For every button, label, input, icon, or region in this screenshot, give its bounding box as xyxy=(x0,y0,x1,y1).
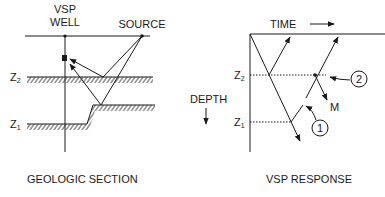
geologic-section-title: GEOLOGIC SECTION xyxy=(27,173,138,185)
z2-layer-hatch xyxy=(27,77,153,83)
vsp-response-title: VSP RESPONSE xyxy=(266,173,352,185)
z2-label: Z2 xyxy=(10,71,21,84)
callout-2-label: 2 xyxy=(356,73,362,85)
z1-upgoing-reflection-lower xyxy=(291,105,303,122)
vsp-z2-label: Z2 xyxy=(234,69,245,82)
time-axis-label: TIME xyxy=(270,18,296,30)
multiple-label: M xyxy=(330,101,339,113)
vsp-z1-label: Z1 xyxy=(234,116,245,129)
vsp-well-label-line2: WELL xyxy=(50,16,80,28)
vsp-well-label-line1: VSP xyxy=(54,3,76,15)
z2-upgoing-reflection xyxy=(269,37,290,75)
multiple-downgoing-wave xyxy=(315,75,327,100)
callout-1-leader xyxy=(306,106,316,120)
z1-layer-hatch xyxy=(27,105,155,130)
direct-downgoing-wave xyxy=(250,34,300,141)
vsp-response: TIME DEPTH Z2 Z1 M 2 1 VSP RESPONSE xyxy=(190,18,385,185)
callout-1-label: 1 xyxy=(317,122,323,134)
ray-path-z1-reflection xyxy=(70,36,142,105)
callout-2-leader xyxy=(330,77,350,80)
vsp-diagram: VSP WELL SOURCE Z2 Z1 GEOLOGIC SECTION T… xyxy=(0,0,385,197)
z1-label: Z1 xyxy=(10,118,21,131)
ray-path-z2-reflection xyxy=(70,36,142,77)
source-label: SOURCE xyxy=(118,18,165,30)
geologic-section: VSP WELL SOURCE Z2 Z1 GEOLOGIC SECTION xyxy=(10,3,166,185)
receiver-geophone-icon xyxy=(62,55,67,61)
depth-axis-label: DEPTH xyxy=(190,93,227,105)
